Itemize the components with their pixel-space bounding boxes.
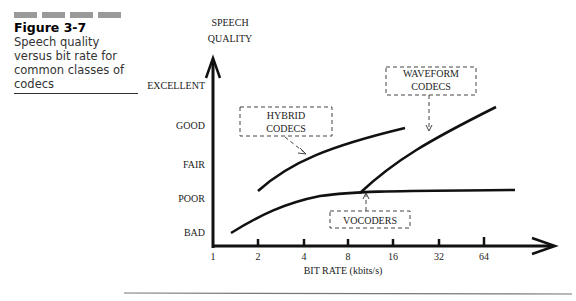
x-axis-title: BIT RATE (kbits/s) bbox=[304, 265, 383, 277]
waveform-label-line1: WAVEFORM bbox=[403, 68, 459, 79]
waveform-label-line2: CODECS bbox=[411, 81, 450, 92]
y-label-bad: BAD bbox=[184, 227, 205, 238]
y-label-fair: FAIR bbox=[183, 159, 205, 170]
y-label-excellent: EXCELLENT bbox=[147, 80, 205, 91]
x-tick-label-2: 2 bbox=[256, 251, 261, 262]
x-tick-label-1: 1 bbox=[211, 251, 216, 262]
x-tick-label-16: 16 bbox=[388, 251, 398, 262]
y-label-good: GOOD bbox=[176, 120, 205, 131]
vocoders-label: VOCODERS bbox=[343, 215, 397, 226]
hybrid-label-line2: CODECS bbox=[266, 123, 305, 134]
y-label-poor: POOR bbox=[178, 193, 205, 204]
waveform-codecs-curve bbox=[360, 107, 496, 193]
x-tick-label-32: 32 bbox=[434, 251, 444, 262]
x-tick-label-8: 8 bbox=[346, 251, 351, 262]
bottom-rule bbox=[124, 293, 572, 294]
hybrid-label-line1: HYBRID bbox=[267, 110, 305, 121]
hybrid-codecs-curve bbox=[258, 128, 405, 191]
x-tick-label-4: 4 bbox=[302, 251, 307, 262]
y-axis-title-line1: SPEECH bbox=[211, 17, 248, 28]
y-axis-title-line2: QUALITY bbox=[208, 33, 252, 44]
x-tick-label-64: 64 bbox=[479, 251, 489, 262]
chart: SPEECH QUALITY BIT RATE (kbits/s) EXCELL… bbox=[0, 0, 576, 301]
